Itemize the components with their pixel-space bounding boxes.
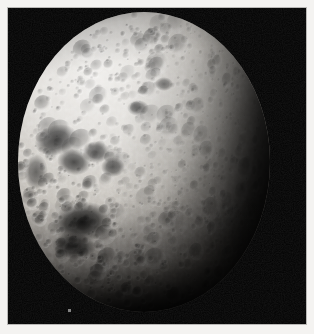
crater	[211, 194, 213, 196]
crater	[91, 164, 94, 167]
crater	[22, 191, 39, 208]
crater	[214, 260, 218, 266]
crater	[121, 78, 126, 83]
crater	[82, 178, 94, 190]
crater	[184, 50, 187, 53]
crater	[161, 34, 171, 45]
crater	[176, 301, 181, 306]
crater	[64, 64, 71, 71]
crater	[69, 220, 78, 229]
crater	[265, 170, 267, 175]
moon-dark-basins	[18, 12, 270, 312]
crater	[38, 117, 61, 140]
crater	[202, 197, 220, 220]
crater	[187, 289, 193, 295]
crater	[209, 158, 211, 161]
crater	[246, 177, 248, 181]
dark-crater-cluster-b	[101, 157, 125, 177]
crater	[124, 203, 129, 208]
crater	[151, 173, 154, 176]
crater	[223, 83, 225, 86]
crater	[77, 183, 83, 189]
crater	[182, 100, 190, 109]
crater	[96, 161, 100, 165]
crater	[124, 299, 132, 307]
crater	[131, 74, 138, 81]
crater	[198, 73, 205, 81]
crater	[80, 98, 98, 116]
crater	[57, 66, 70, 79]
crater	[114, 202, 120, 208]
crater	[59, 171, 62, 174]
crater	[100, 50, 104, 54]
crater	[217, 78, 220, 82]
crater	[85, 79, 98, 92]
crater	[206, 160, 213, 169]
crater	[204, 217, 207, 221]
crater	[137, 90, 143, 96]
crater	[75, 277, 82, 284]
crater	[165, 111, 170, 116]
crater	[23, 159, 30, 166]
crater	[149, 14, 169, 34]
crater	[122, 288, 128, 294]
crater	[174, 209, 176, 211]
crater	[118, 192, 121, 195]
crater	[51, 212, 59, 220]
crater	[135, 187, 158, 210]
crater	[222, 73, 233, 88]
crater	[221, 49, 224, 53]
crater	[200, 165, 205, 171]
crater	[90, 219, 98, 227]
crater	[168, 236, 178, 246]
crater	[58, 215, 63, 220]
crater	[256, 163, 266, 183]
crater	[158, 211, 176, 229]
crater	[108, 198, 113, 203]
crater	[140, 105, 163, 128]
crater	[76, 216, 95, 235]
crater	[183, 177, 189, 183]
crater	[39, 202, 51, 214]
crater	[75, 195, 81, 201]
crater	[140, 271, 149, 280]
crater	[180, 89, 186, 96]
crater	[74, 202, 84, 212]
crater	[149, 144, 154, 149]
crater	[174, 201, 180, 207]
crater	[205, 156, 209, 161]
crater	[153, 81, 161, 89]
crater	[220, 240, 223, 244]
crater	[179, 243, 188, 253]
crater	[82, 181, 94, 193]
crater	[178, 193, 180, 196]
crater	[218, 148, 226, 160]
crater	[152, 215, 155, 218]
crater	[186, 189, 190, 193]
crater	[190, 25, 193, 28]
crater	[68, 273, 70, 275]
crater	[109, 231, 112, 234]
crater	[208, 230, 213, 236]
crater	[92, 47, 94, 49]
crater	[182, 90, 186, 94]
crater	[116, 148, 123, 155]
crater	[128, 281, 133, 286]
crater	[59, 81, 63, 85]
crater	[185, 100, 196, 113]
crater	[224, 213, 227, 217]
crater	[132, 205, 136, 209]
crater	[191, 88, 195, 92]
moon-disc	[18, 12, 270, 312]
crater	[196, 145, 203, 154]
crater	[36, 206, 40, 210]
crater	[260, 124, 262, 128]
crater	[139, 30, 142, 33]
crater	[213, 169, 216, 173]
crater	[39, 211, 48, 220]
crater	[175, 61, 180, 67]
crater	[236, 76, 238, 79]
crater	[83, 279, 89, 285]
crater	[155, 282, 157, 284]
crater	[167, 205, 172, 210]
